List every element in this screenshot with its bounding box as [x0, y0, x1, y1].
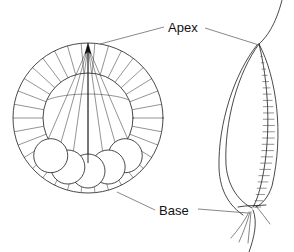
apex-ray: [88, 47, 104, 162]
apex-ray: [72, 47, 88, 162]
lateral-base-junction: [238, 205, 266, 207]
left-figure-transverse-view: [13, 43, 163, 193]
radial-spoke: [67, 46, 75, 75]
radial-spoke: [115, 58, 133, 82]
radial-spoke: [126, 79, 152, 95]
radial-spoke: [18, 91, 46, 102]
radial-spoke: [132, 126, 161, 132]
right-figure-lateral-view: [219, 0, 283, 252]
tendril-1: [231, 212, 249, 238]
leader-lines-group: [100, 27, 259, 213]
radial-spoke: [130, 91, 158, 102]
base-circle: [34, 139, 68, 173]
radial-spoke: [132, 104, 161, 110]
radial-spoke: [100, 46, 108, 75]
lateral-outer-top-curve: [259, 0, 283, 44]
lateral-outer-sheath: [219, 45, 257, 215]
tendril-4-main: [249, 210, 255, 252]
apex-ray: [88, 47, 118, 154]
apex-leader-to-left-figure: [100, 27, 164, 44]
radial-spoke: [24, 79, 50, 95]
radial-spoke: [43, 58, 61, 82]
apex-leader-to-right-figure: [205, 28, 259, 45]
radial-spoke: [14, 126, 43, 132]
base-label: Base: [159, 203, 189, 218]
radial-spoke: [108, 51, 121, 78]
base-leader-to-left-figure: [117, 192, 155, 210]
radial-spoke: [121, 67, 143, 87]
lateral-base-tendrils-group: [231, 206, 270, 252]
diagram-root: Apex Base: [0, 0, 294, 252]
radial-spoke: [14, 104, 43, 110]
apex-label: Apex: [168, 20, 198, 35]
base-leader-to-right-figure: [198, 209, 248, 213]
radial-spoke: [33, 67, 55, 87]
radial-spoke: [55, 51, 68, 78]
anatomical-diagram: Apex Base: [0, 0, 294, 252]
apex-ray: [58, 47, 88, 154]
tendril-5-short: [256, 206, 270, 224]
